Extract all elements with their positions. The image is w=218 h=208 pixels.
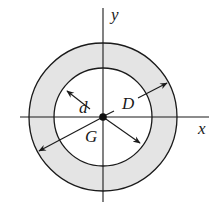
inner-diameter-arrow-lower	[103, 117, 140, 143]
centroid-dot	[99, 113, 107, 121]
centroid-label: G	[85, 127, 97, 146]
x-axis-label: x	[197, 119, 206, 138]
outer-diameter-label: D	[121, 94, 135, 113]
inner-diameter-label: d	[79, 98, 88, 117]
y-axis-label: y	[109, 5, 119, 24]
outer-diameter-arrow-mid	[106, 111, 114, 115]
annulus-diagram: y x d D G	[0, 0, 218, 208]
diagram-canvas: y x d D G	[0, 0, 218, 208]
